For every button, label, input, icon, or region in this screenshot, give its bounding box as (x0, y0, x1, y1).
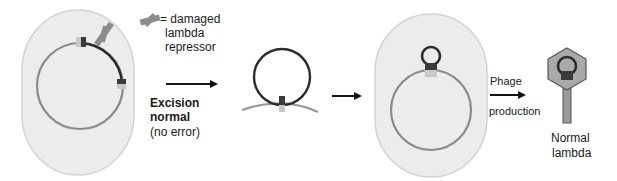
excised-phage-dna (242, 49, 318, 112)
arrow-1 (166, 80, 218, 88)
phage-production-bottom: production (489, 105, 540, 118)
legend-repressor-icon (139, 12, 161, 29)
arrow-2 (332, 92, 362, 100)
bacterial-cell-2 (375, 14, 487, 177)
arrow-3 (490, 91, 526, 99)
bacterial-cell-1 (22, 10, 134, 175)
excision-diagram (0, 0, 617, 181)
excision-note: (no error) (150, 126, 200, 139)
result-label-2: lambda (552, 147, 591, 160)
result-label-1: Normal (551, 132, 590, 145)
legend-label-2: lambda (165, 27, 204, 40)
legend-label-1: = damaged (160, 13, 220, 26)
excision-title-1: Excision (150, 97, 199, 110)
phage-production-top: Phage (490, 75, 522, 88)
excision-title-2: normal (150, 111, 190, 124)
legend-label-3: repressor (165, 41, 216, 54)
lambda-phage-icon (548, 48, 586, 123)
